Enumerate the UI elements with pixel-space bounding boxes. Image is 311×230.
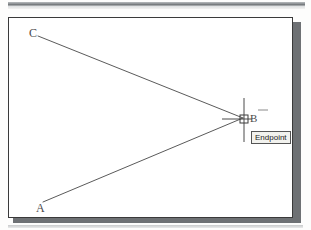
- top-toolbar-band-fade: [8, 6, 305, 9]
- vertex-label-b: B: [250, 112, 258, 124]
- vertex-label-c: C: [29, 26, 37, 41]
- bottom-scan-edge: [8, 225, 303, 228]
- cad-screenshot: C A B Endpoint: [0, 0, 311, 230]
- endpoint-tooltip: Endpoint: [251, 131, 291, 144]
- vertex-label-a: A: [36, 201, 45, 216]
